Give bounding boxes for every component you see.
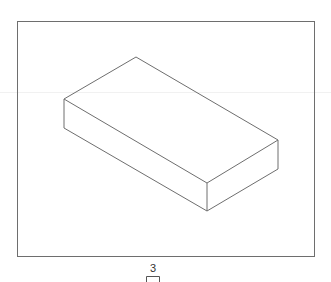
isometric-box-figure: [0, 0, 331, 282]
page-label-bracket: [147, 277, 160, 282]
rectangular-box: [64, 57, 278, 211]
figure-canvas: 3: [0, 0, 331, 282]
box-top-face: [64, 57, 278, 183]
box-left-face-edges: [64, 99, 207, 211]
box-right-face-edges: [207, 140, 278, 211]
figure-frame: [18, 22, 315, 257]
page-number-label: 3: [146, 262, 160, 274]
